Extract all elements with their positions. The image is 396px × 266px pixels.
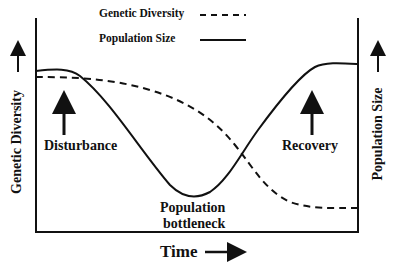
left-axis-label: Genetic Diversity (9, 82, 25, 202)
bottleneck-label-line1: Population (160, 200, 225, 216)
bottleneck-label-line2: bottleneck (163, 216, 225, 232)
x-axis-label: Time (160, 242, 197, 262)
legend-label-population-size: Population Size (99, 32, 175, 44)
recovery-label: Recovery (282, 138, 338, 154)
population-size-curve (36, 63, 358, 196)
legend-label-genetic-diversity: Genetic Diversity (99, 7, 184, 19)
right-axis-label: Population Size (370, 79, 386, 189)
disturbance-label: Disturbance (44, 138, 117, 154)
